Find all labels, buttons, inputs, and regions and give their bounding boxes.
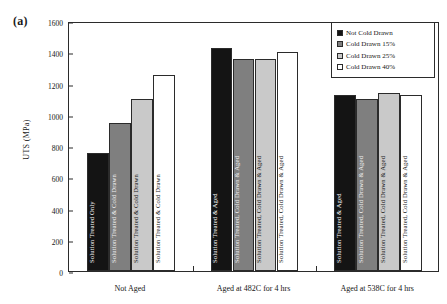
y-tick-label: 1600 — [48, 19, 69, 28]
y-axis-title: UTS (MPa) — [22, 95, 31, 185]
y-tick-mark — [69, 241, 73, 242]
bar-label: Solution Treated, Cold Drawn & Aged — [401, 156, 408, 263]
y-tick-label: 400 — [52, 206, 69, 215]
panel-label: (a) — [13, 14, 28, 29]
x-category-label: Aged at 482C for 4 hrs — [217, 284, 291, 293]
x-category-label: Not Aged — [114, 284, 145, 293]
y-tick-label: 0 — [59, 269, 69, 278]
bar-label: Solution Treated Only — [88, 201, 95, 263]
bar: Solution Treated, Cold Drawn & Aged — [400, 95, 422, 271]
bar: Solution Treated, Cold Drawn & Aged — [233, 59, 255, 271]
chart-legend: Not Cold DrawnCold Drawn 15%Cold Drawn 2… — [331, 22, 435, 78]
x-tick-mark — [316, 266, 317, 271]
bar-label: Solution Treated & Cold Drawn — [132, 174, 139, 263]
legend-item: Cold Drawn 25% — [337, 50, 430, 62]
legend-swatch-icon — [337, 30, 343, 36]
legend-label: Cold Drawn 40% — [346, 63, 395, 71]
y-tick-mark — [69, 210, 73, 211]
bar: Solution Treated & Cold Drawn — [131, 99, 153, 271]
bar: Solution Treated, Cold Drawn & Aged — [277, 52, 299, 271]
bar: Solution Treated & Cold Drawn — [109, 123, 131, 271]
bar: Solution Treated & Cold Drawn — [153, 75, 175, 271]
legend-item: Cold Drawn 15% — [337, 39, 430, 51]
y-tick-mark — [69, 54, 73, 55]
legend-swatch-icon — [337, 53, 343, 59]
bar-label: Solution Treated & Aged — [335, 193, 342, 263]
y-tick-mark — [69, 179, 73, 180]
legend-item: Cold Drawn 40% — [337, 62, 430, 74]
y-tick-label: 1400 — [48, 50, 69, 59]
bar-label: Solution Treated & Aged — [211, 193, 218, 263]
bar: Solution Treated & Aged — [334, 95, 356, 271]
y-tick-label: 1000 — [48, 112, 69, 121]
y-tick-mark — [69, 116, 73, 117]
y-tick-label: 600 — [52, 175, 69, 184]
x-category-label: Aged at 538C for 4 hrs — [340, 284, 414, 293]
bar-label: Solution Treated & Cold Drawn — [154, 174, 161, 263]
bar-label: Solution Treated, Cold Drawn & Aged — [233, 156, 240, 263]
bar: Solution Treated, Cold Drawn & Aged — [378, 93, 400, 271]
y-tick-mark — [69, 148, 73, 149]
bar: Solution Treated & Aged — [211, 48, 233, 271]
legend-item: Not Cold Drawn — [337, 27, 430, 39]
bar-label: Solution Treated & Cold Drawn — [110, 174, 117, 263]
chart-figure: (a) UTS (MPa) 02004006008001000120014001… — [0, 0, 447, 304]
bar: Solution Treated, Cold Drawn & Aged — [255, 59, 277, 271]
y-tick-label: 800 — [52, 144, 69, 153]
y-tick-mark — [69, 273, 73, 274]
legend-label: Cold Drawn 25% — [346, 52, 395, 60]
bar: Solution Treated Only — [87, 153, 109, 271]
y-tick-label: 200 — [52, 237, 69, 246]
legend-swatch-icon — [337, 41, 343, 47]
y-tick-mark — [69, 85, 73, 86]
bar-label: Solution Treated, Cold Drawn & Aged — [255, 156, 262, 263]
x-tick-mark — [193, 266, 194, 271]
bar-label: Solution Treated, Cold Drawn & Aged — [277, 156, 284, 263]
legend-swatch-icon — [337, 64, 343, 70]
bar: Solution Treated, Cold Drawn & Aged — [356, 99, 378, 271]
y-tick-label: 1200 — [48, 81, 69, 90]
legend-label: Not Cold Drawn — [346, 29, 393, 37]
legend-label: Cold Drawn 15% — [346, 40, 395, 48]
bar-label: Solution Treated, Cold Drawn & Aged — [379, 156, 386, 263]
bar-label: Solution Treated, Cold Drawn & Aged — [357, 156, 364, 263]
y-tick-mark — [69, 23, 73, 24]
